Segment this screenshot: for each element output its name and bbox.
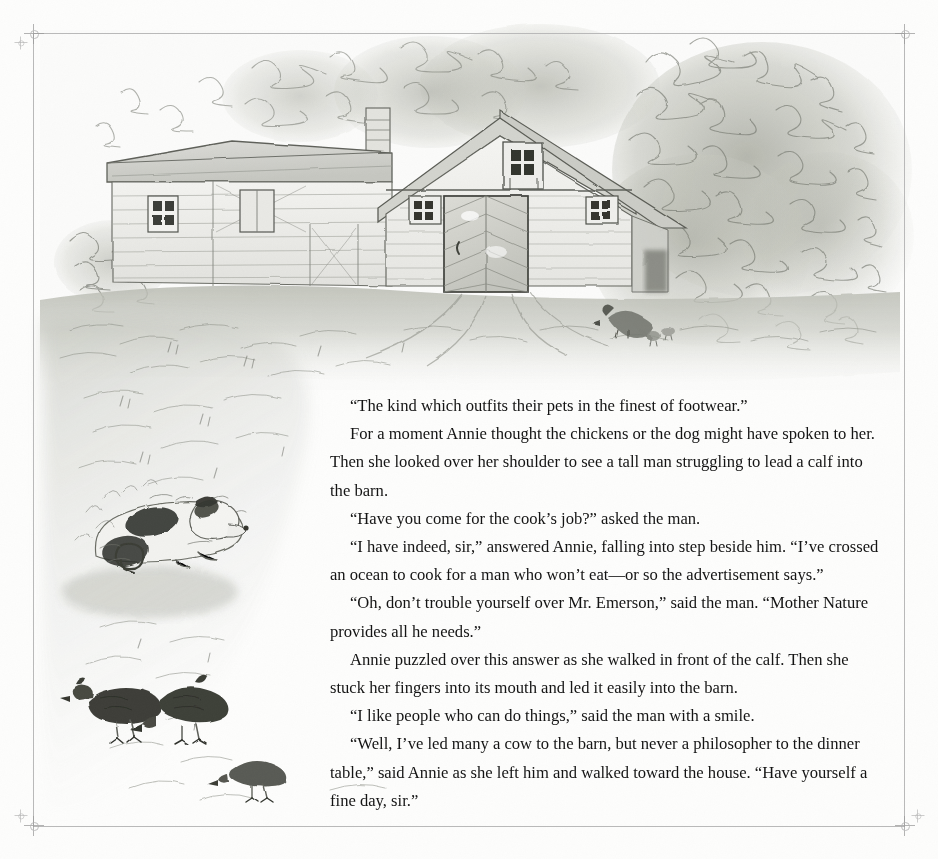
story-paragraph: “I like people who can do things,” said … [330, 702, 879, 730]
registration-dot [18, 40, 24, 46]
registration-dot [901, 822, 910, 831]
registration-dot [18, 813, 24, 819]
chicken-lower [208, 761, 286, 802]
farmhouse-wing [107, 108, 392, 286]
hen-with-chicks [592, 304, 674, 346]
story-paragraph: “I have indeed, sir,” answered Annie, fa… [330, 533, 879, 589]
trim-line-bottom [33, 826, 905, 827]
illustration-background [40, 30, 900, 390]
registration-dot [30, 822, 39, 831]
dog-spotted [62, 479, 249, 618]
trim-line-top [33, 33, 905, 34]
storybook-page: “The kind which outfits their pets in th… [0, 0, 938, 859]
chicken-center [130, 675, 228, 744]
registration-mark-top-right [895, 24, 915, 44]
registration-mark-top-left-secondary [15, 37, 28, 50]
chicken-left [60, 678, 162, 743]
registration-dot [915, 813, 921, 819]
story-paragraph: For a moment Annie thought the chickens … [330, 420, 879, 505]
barn-window-left [409, 196, 441, 224]
barn-door [444, 196, 528, 292]
trim-line-right [904, 33, 905, 826]
story-paragraph: “Well, I’ve led many a cow to the barn, … [330, 730, 879, 815]
story-paragraph: “The kind which outfits their pets in th… [330, 392, 879, 420]
chimney [366, 108, 390, 152]
story-paragraph: Annie puzzled over this answer as she wa… [330, 646, 879, 702]
barn-window-right [586, 196, 618, 224]
wing-window-right [240, 190, 274, 232]
story-paragraph: “Have you come for the cook’s job?” aske… [330, 505, 879, 533]
tree-canopy-scribbles [630, 38, 886, 350]
wing-window-left [148, 196, 178, 232]
barn-main [378, 110, 686, 292]
registration-dot [901, 30, 910, 39]
shrubbery-left [70, 232, 154, 312]
barn-loft-window [503, 143, 543, 189]
story-body-text: “The kind which outfits their pets in th… [330, 392, 879, 815]
tree-canopy [54, 24, 914, 346]
tree-canopy-scribbles-left [96, 42, 578, 148]
story-paragraph: “Oh, don’t trouble yourself over Mr. Eme… [330, 589, 879, 645]
registration-mark-bottom-left-secondary [15, 810, 28, 823]
registration-mark-bottom-right-secondary [912, 810, 925, 823]
registration-dot [30, 30, 39, 39]
trim-line-left [33, 33, 34, 826]
